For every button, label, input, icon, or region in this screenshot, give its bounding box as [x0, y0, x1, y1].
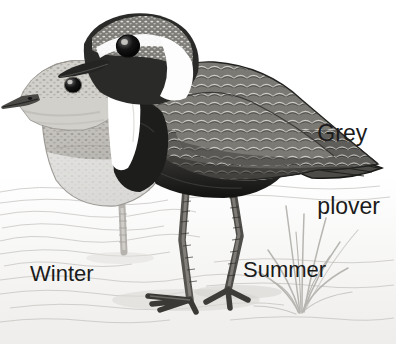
title-line-2: plover	[317, 194, 380, 218]
winter-bird-leg	[119, 206, 127, 252]
species-title: Grey plover Grey plover	[317, 48, 380, 267]
winter-bird-shadow	[86, 252, 154, 264]
summer-label: Summer	[243, 258, 326, 281]
bird-illustration-plate: Grey plover Grey plover Winter Summer	[0, 0, 396, 344]
title-line-1: Grey	[317, 121, 380, 145]
winter-label: Winter	[30, 262, 94, 285]
